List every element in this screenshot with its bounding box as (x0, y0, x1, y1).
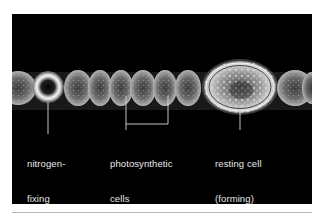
label-photosynthetic-cells: photosynthetic cells (110, 135, 173, 204)
nitrogen-fixing-cell (33, 72, 64, 103)
micrograph-panel: nitrogen- fixing cell photosynthetic cel… (12, 14, 312, 204)
label-resting-cell: resting cell (forming) (215, 135, 262, 204)
label-line: nitrogen- (27, 158, 65, 170)
label-line: resting cell (215, 158, 262, 170)
label-line: (forming) (215, 193, 262, 205)
resting-cell (202, 59, 278, 115)
label-nitrogen-fixing-cell: nitrogen- fixing cell (27, 135, 65, 204)
bottom-divider (12, 212, 312, 213)
label-line: photosynthetic (110, 158, 173, 170)
label-line: cells (110, 193, 173, 205)
vegetative-cell (277, 70, 312, 106)
label-line: fixing (27, 193, 65, 205)
